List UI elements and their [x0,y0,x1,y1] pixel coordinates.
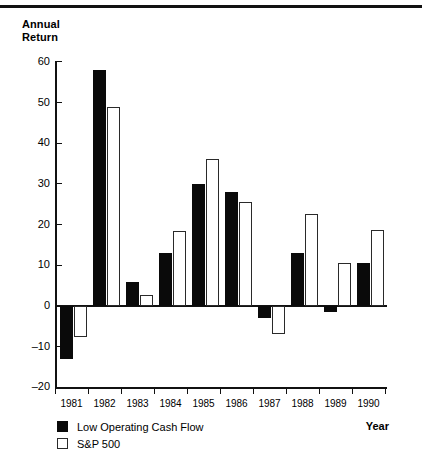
legend-item: S&P 500 [57,435,317,452]
y-axis-tick [55,102,62,103]
legend-swatch-filled-icon [57,421,68,432]
x-axis-tick-label: 1982 [88,398,121,409]
legend-swatch-hollow-icon [57,438,68,449]
y-axis-tick-label-text: –10 [4,341,50,352]
legend-item: Low Operating Cash Flow [57,418,317,435]
x-axis-tick [319,387,320,394]
x-axis-tick [253,387,254,394]
bar-1981-low-operating-cash-flow [60,306,74,359]
x-axis-tick-label: 1990 [352,398,385,409]
y-axis-tick-label: 10 [0,259,50,270]
y-axis-tick-label-text: 10 [4,259,50,270]
bar-1989-low-operating-cash-flow [324,306,338,312]
y-axis-tick [55,387,62,388]
bar-1988-low-operating-cash-flow [291,253,305,306]
x-axis-tick-label: 1988 [286,398,319,409]
x-axis-tick [55,387,56,394]
bar-1982-low-operating-cash-flow [93,70,107,306]
bar-chart-plot: –20–100102030405060 19811982198319841985… [0,0,422,455]
y-axis-tick [55,265,62,266]
bar-1984-sp500 [173,231,187,306]
y-axis-tick-label-text: 30 [4,178,50,189]
bar-1981-sp500 [74,306,88,337]
bar-1990-sp500 [371,230,385,306]
y-axis-tick-label: 60 [0,56,50,67]
y-axis-tick-label-text: 0 [4,300,50,311]
y-axis-tick-label: 50 [0,97,50,108]
y-axis-tick-label: –20 [0,381,50,392]
bar-1987-sp500 [272,306,286,334]
y-axis-tick-label: 30 [0,178,50,189]
y-axis-tick [55,61,62,62]
x-axis-tick-label: 1986 [220,398,253,409]
bar-1985-low-operating-cash-flow [192,184,206,306]
x-axis-tick-label: 1987 [253,398,286,409]
x-axis-tick [187,387,188,394]
x-axis-tick [352,387,353,394]
y-axis-tick-label: 20 [0,219,50,230]
y-axis-tick [55,143,62,144]
x-axis-spine [55,387,387,389]
y-axis-tick-label-text: –20 [4,381,50,392]
bar-1983-low-operating-cash-flow [126,282,140,306]
y-axis-tick-label-text: 60 [4,56,50,67]
y-axis-tick [55,183,62,184]
y-axis-tick-label-text: 50 [4,97,50,108]
bar-1983-sp500 [140,295,154,306]
x-axis-tick-label: 1981 [55,398,88,409]
x-axis-tick [385,387,386,394]
y-axis-spine [55,62,57,389]
x-axis-tick [286,387,287,394]
legend-item-label: S&P 500 [77,438,120,450]
bar-1988-sp500 [305,214,319,306]
x-axis-tick-label: 1985 [187,398,220,409]
x-axis-tick [121,387,122,394]
y-axis-tick-label: –10 [0,341,50,352]
bar-1986-sp500 [239,202,253,306]
y-axis-tick [55,224,62,225]
x-axis-tick-label: 1984 [154,398,187,409]
bar-1985-sp500 [206,159,220,306]
x-axis-tick-label: 1983 [121,398,154,409]
bar-1990-low-operating-cash-flow [357,263,371,306]
y-axis-tick-label-text: 40 [4,137,50,148]
x-axis-tick [220,387,221,394]
x-axis-tick [154,387,155,394]
y-axis-tick-label: 40 [0,137,50,148]
bar-1989-sp500 [338,263,352,306]
legend-item-label: Low Operating Cash Flow [77,421,204,433]
bar-1987-low-operating-cash-flow [258,306,272,318]
y-axis-tick-label: 0 [0,300,50,311]
x-axis-tick-label: 1989 [319,398,352,409]
x-axis-tick [88,387,89,394]
bar-1984-low-operating-cash-flow [159,253,173,306]
x-axis-title: Year [366,420,389,432]
y-axis-tick-label-text: 20 [4,219,50,230]
bar-1986-low-operating-cash-flow [225,192,239,306]
bar-1982-sp500 [107,107,121,306]
chart-legend: Low Operating Cash FlowS&P 500 [57,418,317,452]
